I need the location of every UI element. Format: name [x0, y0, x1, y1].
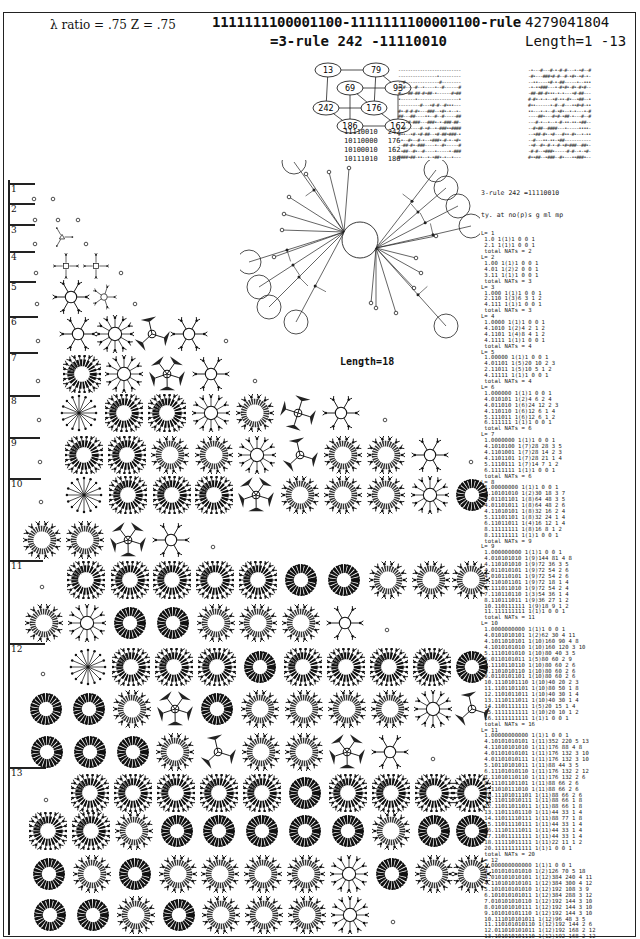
basin-of-attraction-icon [153, 561, 191, 603]
basin-of-attraction-icon [453, 812, 491, 854]
basin-of-attraction-icon [109, 476, 147, 518]
basin-of-attraction-icon [411, 436, 449, 478]
basin-of-attraction-icon [284, 648, 322, 690]
basin-of-attraction-icon [242, 733, 280, 775]
basin-of-attraction-icon [327, 648, 365, 690]
basin-of-attraction-icon [453, 774, 491, 816]
lambda-ratio: λ ratio = .75 Z = .75 [50, 18, 176, 32]
basin-of-attraction-icon [68, 604, 106, 646]
length-block: L= 2 1.00 1(1)1 0 0 1 4.01 1(2)2 0 0 1 3… [481, 255, 633, 285]
basin-of-attraction-icon [192, 394, 230, 436]
basin-of-attraction-icon [324, 476, 362, 518]
point-attractor-icon [49, 188, 57, 207]
row-length-label: 6 [11, 317, 17, 327]
basin-of-attraction-icon [153, 476, 191, 518]
basin-of-attraction-icon [200, 774, 238, 816]
basin-of-attraction-icon [453, 855, 491, 897]
basin-of-attraction-icon [114, 774, 152, 816]
basin-of-attraction-icon [70, 690, 108, 732]
basin-of-attraction-icon [415, 774, 453, 816]
basin-of-attraction-icon [133, 315, 171, 357]
length-range: Length=1 -13 [525, 33, 626, 49]
point-attractor-icon [383, 619, 391, 638]
point-attractor-icon [251, 370, 259, 389]
basin-of-attraction-icon [155, 648, 193, 690]
point-attractor-icon [39, 663, 47, 682]
basin-of-attraction-icon [372, 774, 410, 816]
basin-of-attraction-icon [328, 733, 366, 775]
basin-of-attraction-icon [170, 315, 208, 357]
rule-table-row: 11110010242 [344, 128, 400, 137]
basin-of-attraction-icon [159, 855, 197, 897]
basin-of-attraction-icon [115, 812, 153, 854]
basin-of-attraction-icon [370, 648, 408, 690]
point-attractor-icon [37, 491, 45, 510]
basin-of-attraction-icon [244, 855, 282, 897]
row-length-label: 2 [11, 204, 17, 214]
basin-of-attraction-icon [28, 733, 66, 775]
basin-of-attraction-icon [324, 436, 362, 478]
row-length-label: 7 [11, 353, 17, 363]
basin-of-attraction-icon [152, 521, 190, 563]
basin-of-attraction-icon [156, 733, 194, 775]
point-attractor-icon [34, 370, 42, 389]
svg-text:13: 13 [323, 66, 333, 75]
rule-title-line2: =3-rule 242 -11110010 [270, 33, 447, 49]
point-attractor-icon [36, 451, 44, 470]
basin-of-attraction-icon [111, 604, 149, 646]
basin-of-attraction-icon [59, 315, 97, 357]
basin-of-attraction-icon [197, 604, 235, 646]
basin-of-attraction-icon [367, 476, 405, 518]
basin-of-attraction-icon [65, 436, 103, 478]
basin-of-attraction-icon [285, 690, 323, 732]
rule-binary: 10110000 [344, 137, 378, 146]
length-block: L= 3 1.000 1(1)1 0 0 1 2.110 1(3)6 3 1 2… [481, 285, 633, 315]
length-block: L= 1 1.0 1(1)1 0 0 1 2.1 1(1)1 0 0 1 tot… [481, 231, 633, 255]
svg-text:176: 176 [366, 104, 381, 113]
basin-of-attraction-icon [105, 394, 143, 436]
point-attractor-icon [34, 330, 42, 349]
basin-of-attraction-icon [243, 774, 281, 816]
basin-of-attraction-icon [239, 604, 277, 646]
basin-of-attraction-icon [282, 604, 320, 646]
basin-of-attraction-icon [412, 561, 450, 603]
row-length-label: 10 [11, 479, 22, 489]
svg-text:79: 79 [371, 66, 381, 75]
basin-of-attraction-icon [72, 812, 110, 854]
row-length-label: 9 [11, 438, 17, 448]
basin-of-attraction-icon [286, 812, 324, 854]
basin-of-attraction-icon [195, 476, 233, 518]
basin-of-attraction-icon [105, 355, 143, 397]
basin-of-attraction-icon [151, 436, 189, 478]
basin-of-attraction-icon [411, 476, 449, 518]
row-length-label: 13 [11, 768, 22, 778]
svg-text:242: 242 [318, 104, 333, 113]
basin-of-attraction-icon [96, 315, 134, 357]
basin-of-attraction-icon [453, 690, 491, 732]
basin-of-attraction-icon [198, 690, 236, 732]
basin-of-attraction-icon [66, 521, 104, 563]
point-attractor-icon [82, 233, 90, 252]
basin-of-attraction-icon [238, 436, 276, 478]
basin-of-attraction-icon [239, 561, 277, 603]
basin-of-attraction-icon [67, 561, 105, 603]
length-block: L= 8 1.00000000 1(1)1 0 0 1 4.10101010 1… [481, 480, 633, 545]
basin-of-attraction-icon [285, 733, 323, 775]
rule-table-row: 10110000176 [344, 137, 400, 146]
point-attractor-icon [381, 409, 389, 428]
point-attractor-icon [32, 262, 40, 281]
length-rows-rail [8, 180, 10, 935]
basin-of-attraction-icon [108, 436, 146, 478]
basin-of-attraction-icon [371, 690, 409, 732]
row-length-label: 1 [11, 184, 17, 194]
basin-of-attraction-icon [63, 355, 101, 397]
length-block: L= 9 1.000000000 1(1)1 0 0 1 4.010101010… [481, 544, 633, 621]
basin-of-attraction-icon [367, 436, 405, 478]
basin-of-attraction-icon [113, 690, 151, 732]
basin-of-attraction-icon [279, 394, 317, 436]
basin-of-attraction-icon [329, 812, 367, 854]
basin-of-attraction-icon [245, 896, 283, 938]
basin-of-attraction-icon [148, 355, 186, 397]
basin-of-attraction-icon [281, 476, 319, 518]
point-attractor-icon [31, 233, 39, 252]
